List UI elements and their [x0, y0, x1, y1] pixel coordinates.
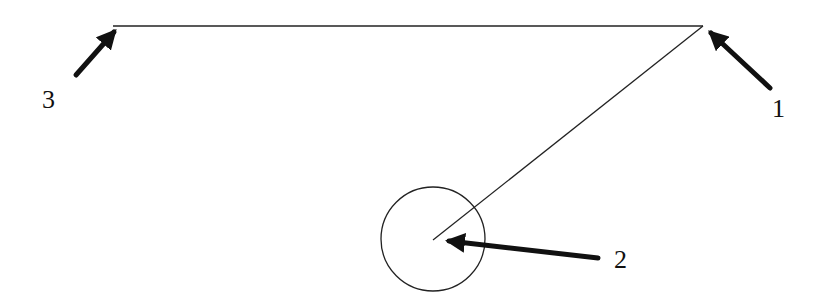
diagonal-line [433, 26, 703, 240]
point-label-3: 3 [42, 85, 55, 114]
point-label-2: 2 [614, 245, 627, 274]
arrow-icon-3 [76, 32, 114, 75]
arrow-icon-1 [711, 33, 770, 88]
arrow-icon-2 [449, 241, 598, 258]
diagram-canvas: 1 2 3 [0, 0, 826, 307]
circle [381, 187, 485, 291]
point-label-1: 1 [772, 94, 785, 123]
